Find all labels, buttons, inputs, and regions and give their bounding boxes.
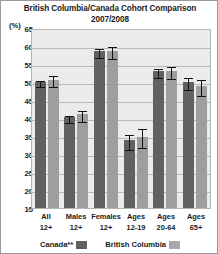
error-bar [69,116,70,123]
error-bar-cap [125,150,134,151]
error-bar-cap [167,79,176,80]
error-bar-cap [154,78,163,79]
bar [166,71,177,208]
error-bar-cap [167,67,176,68]
error-bar [188,78,189,91]
bar-group [181,30,209,208]
bar-british-columbia [137,30,148,208]
chart-subtitle: 2007/2008 [1,15,218,26]
error-bar-cap [108,47,117,48]
x-axis-tick-label-line: 20-64 [151,222,181,233]
error-bar-cap [49,87,58,88]
bar-canada [64,30,75,208]
error-bar [158,69,159,78]
bar-british-columbia [77,30,88,208]
bar [35,82,46,208]
legend-item-canada: Canada** [40,240,87,249]
error-bar [82,111,83,123]
error-bar-cap [197,96,206,97]
error-bar [201,80,202,96]
error-bar-cap [95,58,104,59]
error-bar-cap [108,59,117,60]
error-bar-cap [78,122,87,123]
bar-british-columbia [107,30,118,208]
chart-title-line1: British Columbia/Canada Cohort Compariso… [24,4,196,13]
bar-canada [94,30,105,208]
x-axis-tick-label-line: All [31,211,61,222]
bar-british-columbia [196,30,207,208]
error-bar-cap [138,148,147,149]
bar-british-columbia [48,30,59,208]
bar [153,71,164,208]
y-axis-tick-mark [27,209,30,210]
legend-label-british-columbia: British Columbia [105,240,166,249]
chart-legend: Canada** British Columbia [1,240,218,249]
x-axis-tick-label-line: Females [91,211,121,222]
error-bar [53,76,54,87]
error-bar [112,47,113,59]
bar [48,80,59,208]
chart-title: British Columbia/Canada Cohort Compariso… [1,4,218,25]
y-axis-tick-mark [27,83,30,84]
bar-canada [124,30,135,208]
bar-canada [153,30,164,208]
bar-group [62,30,90,208]
y-axis-tick-mark [27,47,30,48]
x-axis-tick-labels: All12+Males12+Females12+Ages12-19Ages20-… [31,211,211,237]
x-axis-tick-label: Males12+ [61,211,91,237]
error-bar [142,129,143,148]
x-axis-tick-label: Ages12-19 [121,211,151,237]
x-axis-tick-label-line: 65+ [181,222,211,233]
error-bar [129,135,130,149]
x-axis-tick-label-line: Ages [151,211,181,222]
y-axis-tick-mark [27,65,30,66]
y-axis-tick-mark [27,191,30,192]
bar [183,82,194,208]
x-axis-tick-label: All12+ [31,211,61,237]
error-bar-cap [154,69,163,70]
error-bar-cap [95,49,104,50]
bar-group [92,30,120,208]
error-bar-cap [36,87,45,88]
x-axis-tick-label-line: 12+ [61,222,91,233]
error-bar-cap [65,123,74,124]
error-bar-cap [36,81,45,82]
bar-group [122,30,150,208]
x-axis-tick-label-line: 12+ [31,222,61,233]
error-bar [99,49,100,58]
x-axis-tick-label-line: Ages [181,211,211,222]
legend-swatch-british-columbia [169,241,180,249]
error-bar-cap [49,76,58,77]
legend-swatch-canada [76,241,87,249]
bar-british-columbia [166,30,177,208]
x-axis-tick-label: Ages65+ [181,211,211,237]
x-axis-tick-label-line: 12+ [91,222,121,233]
plot-area [31,29,211,209]
error-bar-cap [78,111,87,112]
bar-groups [32,30,210,208]
chart-figure: British Columbia/Canada Cohort Compariso… [0,0,218,254]
y-axis-tick-mark [27,119,30,120]
bar-canada [183,30,194,208]
bar-group [33,30,61,208]
legend-item-british-columbia: British Columbia [105,240,180,249]
y-axis-tick-mark [27,173,30,174]
legend-label-canada: Canada** [40,240,73,249]
y-axis-tick-mark [27,155,30,156]
bar-group [151,30,179,208]
error-bar [171,67,172,79]
x-axis-tick-label: Ages20-64 [151,211,181,237]
bar [77,114,88,208]
x-axis-tick-label-line: Males [61,211,91,222]
bar-canada [35,30,46,208]
bar [64,117,75,208]
error-bar-cap [184,78,193,79]
error-bar-cap [197,80,206,81]
y-axis-tick-mark [27,137,30,138]
x-axis-tick-label: Females12+ [91,211,121,237]
bar [94,51,105,208]
y-axis-tick-mark [27,101,30,102]
error-bar-cap [138,129,147,130]
error-bar-cap [65,116,74,117]
x-axis-tick-label-line: Ages [121,211,151,222]
